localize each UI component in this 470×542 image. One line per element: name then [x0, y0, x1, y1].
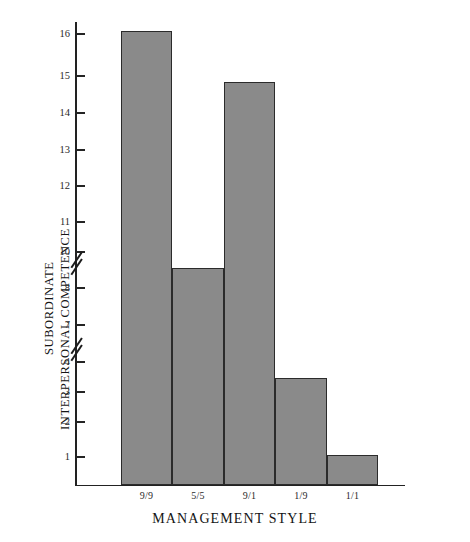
y-tick-label: 12: [48, 180, 70, 192]
y-tick-mark: [76, 324, 85, 325]
x-axis-title: MANAGEMENT STYLE: [0, 511, 470, 527]
bar-1-9: [275, 378, 327, 485]
y-tick-mark: [76, 149, 85, 150]
bar-chart: SUBORDINATE INTERPERSONAL COMPETENCE 161…: [0, 0, 470, 542]
y-tick-label-text: 12: [50, 180, 70, 191]
bar-1-1: [327, 455, 378, 485]
y-tick-label-text: 3: [50, 386, 70, 397]
y-tick-label-text: 15: [50, 70, 70, 81]
y-tick-label: 7: [48, 319, 70, 331]
y-tick-mark: [76, 75, 85, 76]
bar-9-9: [121, 31, 172, 485]
y-tick-mark: [76, 391, 85, 392]
x-tick-label: 1/9: [275, 490, 327, 501]
y-axis-title-line-1: SUBORDINATE: [42, 262, 57, 355]
x-tick-label: 1/1: [327, 490, 378, 501]
y-tick-label-text: 13: [50, 144, 70, 155]
y-tick-mark: [76, 361, 85, 362]
y-tick-label: 15: [48, 70, 70, 82]
y-tick-label: 2: [48, 416, 70, 428]
y-tick-label-text: 2: [50, 416, 70, 427]
y-tick-label: 8: [48, 282, 70, 294]
y-tick-label-text: 16: [50, 28, 70, 39]
y-tick-label: 1: [48, 451, 70, 463]
y-tick-mark: [76, 185, 85, 186]
y-tick-mark: [76, 456, 85, 457]
y-tick-mark: [76, 287, 85, 288]
y-tick-label-text: 7: [50, 319, 70, 330]
y-tick-mark: [76, 33, 85, 34]
y-tick-mark: [76, 421, 85, 422]
y-tick-label-text: 11: [50, 216, 70, 227]
y-tick-label: 11: [48, 216, 70, 228]
y-tick-label: 16: [48, 28, 70, 40]
y-tick-mark: [76, 221, 85, 222]
y-tick-label-text: 8: [50, 282, 70, 293]
x-tick-label: 9/1: [224, 490, 275, 501]
y-tick-label-text: 1: [50, 451, 70, 462]
x-tick-label: 9/9: [121, 490, 172, 501]
y-tick-label-text: 14: [50, 107, 70, 118]
axis-break-icon: [66, 339, 88, 359]
bar-5-5: [172, 268, 224, 485]
y-tick-mark: [76, 112, 85, 113]
axis-break-icon: [66, 253, 88, 273]
x-tick-label: 5/5: [172, 490, 224, 501]
y-tick-label: 13: [48, 144, 70, 156]
y-tick-label: 14: [48, 107, 70, 119]
bar-9-1: [224, 82, 275, 485]
y-tick-label: 3: [48, 386, 70, 398]
